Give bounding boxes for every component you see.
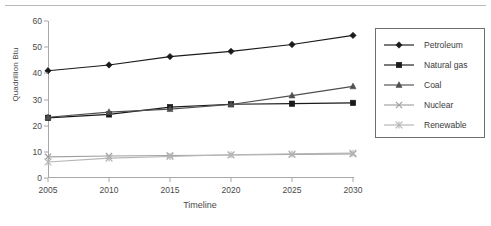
legend-swatch-square-icon — [383, 59, 415, 71]
y-axis-tick-mark — [44, 73, 48, 74]
series-coal — [45, 83, 356, 120]
legend-label: Renewable — [424, 120, 467, 130]
data-point-square — [350, 100, 355, 105]
x-axis-tick-mark — [48, 178, 49, 182]
legend-swatch-triangle-icon — [383, 79, 415, 91]
x-axis-tick-mark — [292, 178, 293, 182]
legend-item-natural-gas[interactable]: Natural gas — [376, 55, 484, 75]
series-petroleum — [45, 32, 356, 74]
legend-item-renewable[interactable]: Renewable — [376, 115, 484, 135]
legend-swatch-diamond-icon — [383, 39, 415, 51]
x-axis-tick-mark — [353, 178, 354, 182]
legend-item-petroleum[interactable]: Petroleum — [376, 35, 484, 55]
y-axis-tick-mark — [44, 21, 48, 22]
y-axis-tick-mark — [44, 151, 48, 152]
x-axis-tick-mark — [231, 178, 232, 182]
data-point-square — [289, 101, 294, 106]
chart-figure-root: Quadrillion Btu 010203040506020052010201… — [0, 0, 491, 226]
legend-label: Petroleum — [424, 40, 463, 50]
data-point-diamond — [106, 62, 112, 68]
y-axis-tick-mark — [44, 99, 48, 100]
data-point-square — [396, 62, 401, 67]
legend-swatch-cross-icon — [383, 99, 415, 111]
top-divider — [5, 5, 486, 6]
y-axis-tick-mark — [44, 125, 48, 126]
legend-label: Natural gas — [424, 60, 467, 70]
x-axis-title: Timeline — [40, 200, 360, 210]
data-point-diamond — [289, 41, 295, 47]
legend-label: Nuclear — [424, 100, 453, 110]
chart-legend: PetroleumNatural gasCoalNuclearRenewable — [375, 28, 485, 138]
line-chart: Quadrillion Btu 010203040506020052010201… — [0, 10, 370, 220]
series-renewable — [45, 150, 357, 166]
y-axis-title: Quadrillion Btu — [11, 20, 20, 130]
x-axis-tick-mark — [109, 178, 110, 182]
series-natural-gas — [45, 100, 355, 120]
data-point-diamond — [228, 48, 234, 54]
series-layer — [48, 21, 353, 178]
legend-item-nuclear[interactable]: Nuclear — [376, 95, 484, 115]
data-point-diamond — [350, 32, 356, 38]
legend-swatch-asterisk-icon — [383, 119, 415, 131]
x-axis-tick-mark — [170, 178, 171, 182]
legend-label: Coal — [424, 80, 441, 90]
y-axis-tick-mark — [44, 47, 48, 48]
data-point-diamond — [396, 42, 402, 48]
plot-area: 0102030405060200520102015202020252030 — [48, 21, 353, 178]
legend-item-coal[interactable]: Coal — [376, 75, 484, 95]
data-point-triangle — [350, 83, 356, 89]
data-point-diamond — [167, 53, 173, 59]
